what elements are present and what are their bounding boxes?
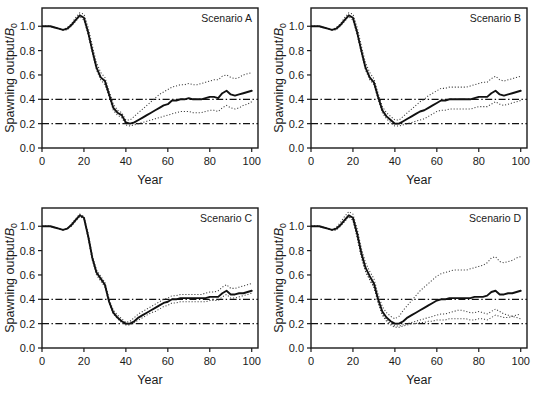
y-tick-label: 0.4 [289, 93, 304, 105]
x-tick-label: 20 [347, 355, 359, 367]
x-tick-label: 20 [78, 155, 90, 167]
y-tick-label: 0.2 [20, 118, 35, 130]
plot-frame [42, 208, 258, 348]
y-tick-label: 0.8 [20, 245, 35, 257]
x-axis-title: Year [406, 373, 431, 387]
x-tick-label: 40 [389, 155, 401, 167]
x-tick-label: 100 [243, 355, 261, 367]
y-tick-label: 0.8 [289, 45, 304, 57]
x-tick-label: 60 [431, 155, 443, 167]
series-median [42, 15, 252, 123]
y-tick-label: 0.8 [289, 245, 304, 257]
x-tick-label: 20 [78, 355, 90, 367]
y-tick-label: 0.4 [289, 293, 304, 305]
x-tick-label: 40 [120, 355, 132, 367]
figure-container: 0.00.20.40.60.81.0020406080100Scenario A… [0, 0, 538, 400]
y-tick-label: 0.0 [289, 342, 304, 354]
y-tick-label: 0.6 [20, 69, 35, 81]
x-tick-label: 0 [39, 155, 45, 167]
y-tick-label: 0.4 [20, 293, 35, 305]
y-tick-label: 0.6 [20, 269, 35, 281]
x-axis-title: Year [137, 373, 162, 387]
y-axis-title: Spawning output/B0 [3, 23, 19, 133]
y-axis-title-main: Spawning output/ [3, 236, 17, 333]
y-axis-title-subscript: 0 [9, 223, 19, 228]
x-tick-label: 20 [347, 155, 359, 167]
y-axis-title-main: Spawning output/ [272, 236, 286, 333]
y-axis-title: Spawning output/B0 [272, 223, 288, 333]
y-tick-label: 1.0 [289, 20, 304, 32]
y-axis-title-symbol: B [3, 28, 17, 36]
x-tick-label: 40 [120, 155, 132, 167]
y-axis-title-subscript: 0 [278, 23, 288, 28]
x-tick-label: 80 [204, 355, 216, 367]
y-tick-label: 0.0 [289, 142, 304, 154]
series-median [311, 215, 521, 323]
x-tick-label: 100 [512, 155, 530, 167]
y-tick-label: 1.0 [20, 220, 35, 232]
x-tick-label: 80 [473, 355, 485, 367]
y-tick-label: 0.6 [289, 69, 304, 81]
x-tick-label: 60 [162, 155, 174, 167]
y-axis-title-main: Spawning output/ [272, 36, 286, 133]
y-tick-label: 0.6 [289, 269, 304, 281]
x-tick-label: 0 [308, 355, 314, 367]
y-tick-label: 0.8 [20, 45, 35, 57]
series-lower-band [311, 17, 521, 127]
x-tick-label: 100 [243, 155, 261, 167]
x-tick-label: 80 [204, 155, 216, 167]
series-upper-band [42, 214, 252, 322]
series-upper-band [311, 212, 521, 319]
plot-frame [311, 208, 527, 348]
y-tick-label: 0.0 [20, 142, 35, 154]
y-axis-title-symbol: B [3, 228, 17, 236]
series-median [42, 215, 252, 323]
series-median [311, 15, 521, 123]
y-axis-title: Spawning output/B0 [3, 223, 19, 333]
x-tick-label: 40 [389, 355, 401, 367]
x-tick-label: 60 [162, 355, 174, 367]
series-lower-band [311, 217, 521, 327]
series-lower-band [42, 17, 252, 127]
y-tick-label: 0.0 [20, 342, 35, 354]
panel-label-d: Scenario D [469, 212, 521, 224]
series-upper-band [311, 13, 521, 120]
series-lower-band-2 [311, 217, 521, 328]
x-tick-label: 0 [308, 155, 314, 167]
panel-label-a: Scenario A [201, 12, 252, 24]
y-axis-title-subscript: 0 [278, 223, 288, 228]
x-tick-label: 60 [431, 355, 443, 367]
y-tick-label: 0.4 [20, 93, 35, 105]
y-tick-label: 1.0 [20, 20, 35, 32]
panel-scenario-d: 0.00.20.40.60.81.0020406080100Scenario D… [269, 200, 538, 400]
panel-scenario-b: 0.00.20.40.60.81.0020406080100Scenario B… [269, 0, 538, 200]
panel-label-b: Scenario B [470, 12, 521, 24]
x-tick-label: 0 [39, 355, 45, 367]
panel-label-c: Scenario C [200, 212, 252, 224]
x-axis-title: Year [137, 173, 162, 187]
y-tick-label: 0.2 [289, 118, 304, 130]
x-tick-label: 80 [473, 155, 485, 167]
plot-frame [311, 8, 527, 148]
x-axis-title: Year [406, 173, 431, 187]
y-axis-title-symbol: B [272, 228, 286, 236]
plot-frame [42, 8, 258, 148]
panel-scenario-a: 0.00.20.40.60.81.0020406080100Scenario A… [0, 0, 269, 200]
series-upper-band [42, 13, 252, 120]
y-tick-label: 0.2 [289, 318, 304, 330]
panel-scenario-c: 0.00.20.40.60.81.0020406080100Scenario C… [0, 200, 269, 400]
y-axis-title: Spawning output/B0 [272, 23, 288, 133]
y-axis-title-main: Spawning output/ [3, 36, 17, 133]
y-tick-label: 0.2 [20, 318, 35, 330]
y-axis-title-symbol: B [272, 28, 286, 36]
x-tick-label: 100 [512, 355, 530, 367]
y-tick-label: 1.0 [289, 220, 304, 232]
y-axis-title-subscript: 0 [9, 23, 19, 28]
